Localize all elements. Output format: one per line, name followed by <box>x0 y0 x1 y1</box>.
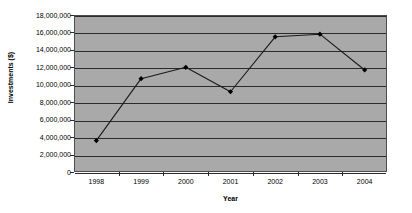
data-series-layer <box>74 15 387 172</box>
x-tick-label: 1998 <box>76 178 116 185</box>
x-tick-label: 2001 <box>211 178 251 185</box>
y-tick-label: 18,000,000 <box>36 12 71 19</box>
y-tick-label: 6,000,000 <box>40 116 71 123</box>
y-tick-label: 2,000,000 <box>40 151 71 158</box>
y-tick-label: 14,000,000 <box>36 46 71 53</box>
chart-title: 1998-2004 <box>14 0 59 1</box>
x-tick-label: 2003 <box>300 178 340 185</box>
line-chart: 1998-2004 Investments ($) 18,000,00016,0… <box>0 0 412 213</box>
x-tick-mark <box>119 172 120 176</box>
x-tick-mark <box>163 172 164 176</box>
y-tick-label: 12,000,000 <box>36 64 71 71</box>
x-tick-mark <box>298 172 299 176</box>
x-tick-mark <box>253 172 254 176</box>
y-tick-mark <box>70 172 74 173</box>
series-line <box>96 34 364 140</box>
x-axis-title: Year <box>74 195 387 202</box>
x-tick-label: 2002 <box>255 178 295 185</box>
y-tick-label: 10,000,000 <box>36 81 71 88</box>
data-point-marker <box>183 65 188 70</box>
y-axis-title: Investments ($) <box>7 35 14 121</box>
x-tick-label: 1999 <box>121 178 161 185</box>
y-tick-label: 8,000,000 <box>40 99 71 106</box>
x-tick-label: 2000 <box>166 178 206 185</box>
y-tick-label: 16,000,000 <box>36 29 71 36</box>
gridline <box>75 173 386 174</box>
y-tick-label: 4,000,000 <box>40 134 71 141</box>
x-tick-mark <box>342 172 343 176</box>
x-tick-mark <box>208 172 209 176</box>
x-tick-label: 2004 <box>345 178 385 185</box>
